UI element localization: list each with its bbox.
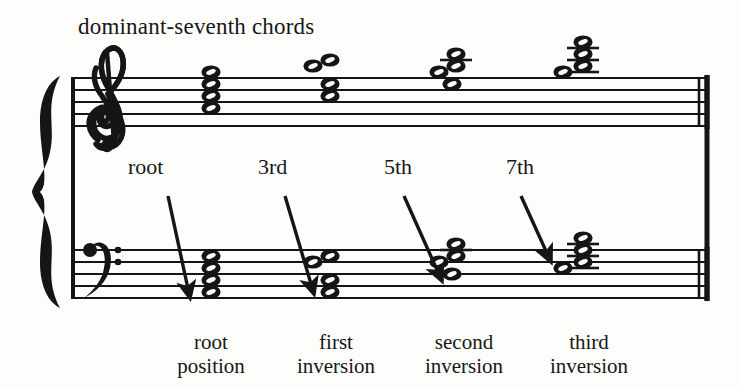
figure-page: dominant-seventh chords: [0, 0, 741, 388]
note-head: [201, 249, 220, 262]
note-head: [201, 261, 220, 274]
note-head: [320, 273, 339, 286]
note-head: [573, 47, 592, 60]
note-head: [320, 53, 339, 66]
note-head: [553, 65, 572, 78]
note-head: [442, 267, 461, 280]
note-head: [573, 243, 592, 256]
note-head: [442, 77, 461, 90]
caption-line-1: first: [319, 330, 353, 354]
note-head: [446, 59, 465, 72]
chord-second-inversion-treble: [429, 47, 472, 90]
caption-third-inversion: thirdinversion: [519, 330, 659, 378]
note-head: [201, 65, 220, 78]
note-head: [303, 59, 322, 72]
pointer-arrow-root: [168, 196, 190, 298]
treble-clef-icon: [89, 48, 123, 152]
note-head: [201, 89, 220, 102]
note-head: [201, 285, 220, 298]
caption-first-inversion: firstinversion: [266, 330, 406, 378]
caption-line-2: inversion: [519, 354, 659, 378]
caption-line-1: third: [569, 330, 609, 354]
double-barline: [699, 75, 707, 301]
caption-root-position: rootposition: [141, 330, 281, 378]
caption-line-2: inversion: [394, 354, 534, 378]
chord-third-inversion-bass: [553, 231, 599, 274]
note-head: [429, 65, 448, 78]
note-head: [573, 231, 592, 244]
interval-label-root: root: [128, 154, 163, 180]
caption-line-1: second: [435, 330, 493, 354]
caption-line-2: position: [141, 354, 281, 378]
pointer-arrow-7th: [521, 196, 551, 262]
note-head: [320, 285, 339, 298]
note-head: [201, 273, 220, 286]
interval-label-5th: 5th: [384, 154, 412, 180]
note-head: [446, 249, 465, 262]
note-head: [320, 77, 339, 90]
caption-line-2: inversion: [266, 354, 406, 378]
treble-staff: [72, 78, 709, 126]
note-head: [446, 237, 465, 250]
interval-label-3rd: 3rd: [258, 154, 287, 180]
note-head: [573, 59, 592, 72]
caption-line-1: root: [194, 330, 228, 354]
note-head: [201, 77, 220, 90]
note-head: [320, 249, 339, 262]
pointer-arrow-5th: [404, 196, 442, 281]
note-head: [553, 261, 572, 274]
chord-third-inversion-treble: [553, 35, 599, 78]
note-head: [573, 255, 592, 268]
bass-staff: [72, 250, 709, 298]
note-head: [320, 89, 339, 102]
note-head: [446, 47, 465, 60]
note-head: [573, 35, 592, 48]
grand-staff-brace: [32, 76, 60, 308]
pointer-arrow-3rd: [285, 196, 314, 294]
interval-label-7th: 7th: [506, 154, 534, 180]
note-head: [201, 101, 220, 114]
caption-second-inversion: secondinversion: [394, 330, 534, 378]
arrow-layer: [168, 196, 551, 298]
